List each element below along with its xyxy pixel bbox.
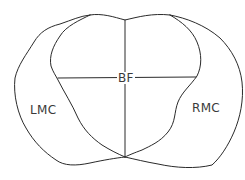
right-outer-outline: [125, 15, 243, 168]
cross-section-diagram: BF LMC RMC: [0, 0, 245, 180]
rmc-label: RMC: [192, 102, 220, 114]
left-outer-outline: [15, 15, 125, 165]
bf-label: BF: [117, 72, 135, 84]
lmc-label: LMC: [30, 104, 56, 116]
diagram-drawing: [0, 0, 245, 180]
top-boundary: [90, 14, 170, 20]
bf-right-boundary: [125, 15, 201, 157]
bf-left-boundary: [50, 15, 125, 157]
